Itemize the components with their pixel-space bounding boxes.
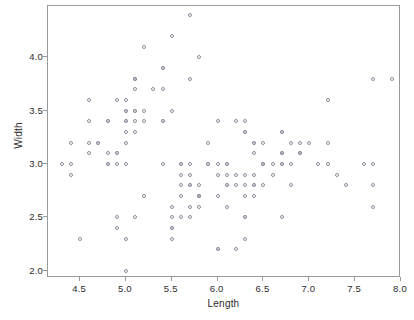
data-point	[243, 237, 247, 241]
data-point	[170, 237, 174, 241]
data-point	[225, 162, 229, 166]
data-point	[170, 215, 174, 219]
data-point	[188, 205, 192, 209]
data-point	[106, 151, 110, 155]
data-point	[216, 162, 220, 166]
data-point	[106, 119, 110, 123]
data-point	[252, 194, 256, 198]
data-point	[188, 173, 192, 177]
data-point	[115, 226, 119, 230]
data-point	[197, 55, 201, 59]
data-point	[69, 141, 73, 145]
data-point	[371, 205, 375, 209]
data-point	[124, 130, 128, 134]
data-point	[115, 151, 119, 155]
data-point	[289, 162, 293, 166]
y-tick-mark	[43, 56, 47, 57]
y-tick-label: 4.0	[29, 51, 43, 62]
data-point	[225, 205, 229, 209]
data-point	[216, 194, 220, 198]
data-point	[206, 162, 210, 166]
data-point	[197, 183, 201, 187]
data-point	[124, 141, 128, 145]
data-point	[188, 215, 192, 219]
data-point	[115, 162, 119, 166]
x-tick-label: 6.0	[210, 283, 224, 294]
data-point	[316, 162, 320, 166]
data-point	[161, 162, 165, 166]
data-point	[234, 183, 238, 187]
data-point	[142, 45, 146, 49]
data-point	[206, 141, 210, 145]
x-tick-mark	[262, 277, 263, 281]
data-point	[371, 183, 375, 187]
data-point	[124, 269, 128, 273]
x-tick-label: 7.0	[301, 283, 315, 294]
data-point	[234, 173, 238, 177]
data-point	[151, 87, 155, 91]
data-point	[362, 162, 366, 166]
data-points-layer	[48, 6, 399, 276]
x-tick-label: 4.5	[72, 283, 86, 294]
data-point	[252, 151, 256, 155]
data-point	[216, 119, 220, 123]
data-point	[261, 141, 265, 145]
data-point	[124, 162, 128, 166]
data-point	[243, 183, 247, 187]
x-tick-label: 7.5	[347, 283, 361, 294]
data-point	[225, 173, 229, 177]
data-point	[179, 173, 183, 177]
data-point	[344, 183, 348, 187]
data-point	[170, 34, 174, 38]
data-point	[261, 183, 265, 187]
data-point	[161, 119, 165, 123]
data-point	[234, 247, 238, 251]
data-point	[179, 162, 183, 166]
data-point	[371, 162, 375, 166]
data-point	[280, 130, 284, 134]
data-point	[335, 173, 339, 177]
data-point	[115, 98, 119, 102]
plot-area	[47, 5, 400, 277]
data-point	[188, 77, 192, 81]
data-point	[133, 215, 137, 219]
x-tick-label: 5.5	[164, 283, 178, 294]
scatter-chart: 4.55.05.56.06.57.07.58.0 2.02.53.03.54.0…	[0, 0, 414, 320]
y-tick-mark	[43, 163, 47, 164]
data-point	[234, 119, 238, 123]
data-point	[289, 183, 293, 187]
data-point	[225, 183, 229, 187]
data-point	[124, 237, 128, 241]
data-point	[289, 141, 293, 145]
data-point	[87, 98, 91, 102]
data-point	[179, 183, 183, 187]
data-point	[133, 109, 137, 113]
x-tick-mark	[79, 277, 80, 281]
x-tick-label: 8.0	[393, 283, 407, 294]
data-point	[298, 141, 302, 145]
data-point	[133, 87, 137, 91]
y-tick-mark	[43, 216, 47, 217]
data-point	[179, 215, 183, 219]
y-tick-label: 2.5	[29, 211, 43, 222]
x-tick-mark	[171, 277, 172, 281]
data-point	[216, 173, 220, 177]
y-tick-mark	[43, 110, 47, 111]
data-point	[133, 119, 137, 123]
data-point	[69, 162, 73, 166]
data-point	[188, 183, 192, 187]
x-tick-label: 5.0	[118, 283, 132, 294]
data-point	[133, 130, 137, 134]
data-point	[78, 237, 82, 241]
data-point	[271, 162, 275, 166]
data-point	[243, 173, 247, 177]
data-point	[188, 162, 192, 166]
data-point	[298, 151, 302, 155]
data-point	[170, 109, 174, 113]
data-point	[252, 173, 256, 177]
data-point	[252, 183, 256, 187]
data-point	[115, 215, 119, 219]
data-point	[390, 77, 394, 81]
x-tick-mark	[308, 277, 309, 281]
y-tick-label: 3.0	[29, 157, 43, 168]
